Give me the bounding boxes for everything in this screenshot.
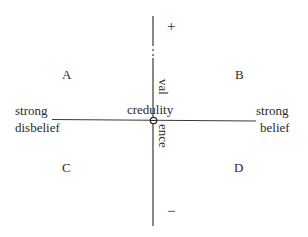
quadrant-b-label: B [235, 68, 244, 82]
belief-valence-diagram: + − A B C D strong disbelief strong beli… [0, 0, 308, 237]
strong-disbelief-label-line2: disbelief [15, 121, 60, 135]
strong-belief-label-line1: strong [256, 104, 289, 118]
positive-valence-sign: + [167, 19, 175, 34]
strong-disbelief-label-line1: strong [15, 104, 48, 118]
valence-label-top: val [156, 79, 170, 95]
negative-valence-sign: − [167, 204, 175, 219]
quadrant-a-label: A [62, 68, 71, 82]
strong-belief-label-line2: belief [260, 121, 290, 135]
quadrant-c-label: C [62, 161, 71, 175]
quadrant-d-label: D [234, 161, 243, 175]
axes-lines [0, 0, 308, 237]
credulity-label: credulity [127, 103, 173, 117]
valence-label-bottom: ence [156, 124, 170, 148]
